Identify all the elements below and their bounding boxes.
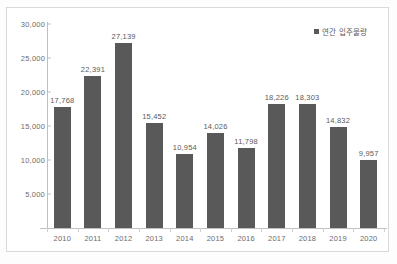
- x-axis-tick-mark: [170, 228, 171, 232]
- x-axis-tick-label: 2015: [200, 234, 231, 243]
- y-axis-tick-label: 25,000: [1, 54, 45, 63]
- x-axis-tick-label: 2016: [231, 234, 262, 243]
- x-axis-tick-mark: [78, 228, 79, 232]
- x-axis-tick-label: 2019: [323, 234, 354, 243]
- x-axis-tick-label: 2013: [139, 234, 170, 243]
- bar[interactable]: 14,832: [330, 127, 347, 228]
- y-axis-tick-label: 10,000: [1, 156, 45, 165]
- bar[interactable]: 18,303: [299, 104, 316, 228]
- bar[interactable]: 18,226: [268, 104, 285, 228]
- x-axis-tick-label: 2017: [261, 234, 292, 243]
- bar[interactable]: 10,954: [176, 154, 193, 228]
- x-axis-tick-mark: [323, 228, 324, 232]
- y-axis-tick-mark: [47, 126, 51, 127]
- bar[interactable]: 9,957: [360, 160, 377, 228]
- x-axis-tick-mark: [384, 228, 385, 232]
- x-axis-tick-label: 2012: [108, 234, 139, 243]
- bar[interactable]: 27,139: [115, 43, 132, 228]
- y-axis-tick-mark: [47, 194, 51, 195]
- bar-column[interactable]: 15,452: [139, 36, 170, 228]
- y-axis-tick-mark: [47, 160, 51, 161]
- x-axis-tick-label: 2018: [292, 234, 323, 243]
- x-axis-category-labels: 2010201120122013201420152016201720182019…: [47, 234, 384, 248]
- bar-value-label: 10,954: [173, 143, 197, 152]
- bar-value-label: 14,832: [326, 116, 350, 125]
- bar-value-label: 11,798: [234, 137, 258, 146]
- x-axis-tick-label: 2011: [78, 234, 109, 243]
- x-axis-tick-mark: [353, 228, 354, 232]
- y-axis-tick-mark: [47, 24, 51, 25]
- bar-column[interactable]: 27,139: [108, 36, 139, 228]
- bar-value-label: 22,391: [81, 65, 105, 74]
- y-axis-tick-labels: 30,00025,00020,00015,00010,0005,000: [0, 0, 45, 264]
- bar-column[interactable]: 10,954: [170, 36, 201, 228]
- bar-value-label: 17,768: [50, 96, 74, 105]
- bar-value-label: 18,226: [265, 93, 289, 102]
- bar-series-group: 17,76822,39127,13915,45210,95414,02611,7…: [47, 0, 384, 264]
- x-axis-tick-label: 2014: [170, 234, 201, 243]
- bar-value-label: 18,303: [295, 93, 319, 102]
- y-axis-tick-label: 20,000: [1, 88, 45, 97]
- bar-column[interactable]: 18,303: [292, 36, 323, 228]
- legend-swatch-icon: [314, 29, 319, 34]
- y-axis-tick-label: 5,000: [1, 190, 45, 199]
- x-axis-tick-mark: [261, 228, 262, 232]
- legend-label: 연간 입주물량: [322, 26, 367, 37]
- x-axis-tick-mark: [231, 228, 232, 232]
- bar[interactable]: 14,026: [207, 133, 224, 228]
- y-axis-tick-mark: [47, 92, 51, 93]
- x-axis-tick-label: 2010: [47, 234, 78, 243]
- x-axis-tick-label: 2020: [353, 234, 384, 243]
- x-axis-tick-mark: [108, 228, 109, 232]
- x-axis-tick-mark: [200, 228, 201, 232]
- bar-column[interactable]: 17,768: [47, 36, 78, 228]
- bar-value-label: 27,139: [112, 32, 136, 41]
- y-axis-tick-mark: [47, 58, 51, 59]
- y-axis-tick-label: 15,000: [1, 122, 45, 131]
- bar[interactable]: 17,768: [54, 107, 71, 228]
- bar-value-label: 14,026: [203, 122, 227, 131]
- bar-chart-figure: 30,00025,00020,00015,00010,0005,000 17,7…: [0, 0, 397, 264]
- bar-column[interactable]: 14,832: [323, 36, 354, 228]
- bar-column[interactable]: 9,957: [353, 36, 384, 228]
- x-axis-tick-mark: [292, 228, 293, 232]
- bar-value-label: 9,957: [359, 149, 379, 158]
- bar-column[interactable]: 18,226: [261, 36, 292, 228]
- x-axis-tick-mark: [47, 228, 48, 232]
- bar-column[interactable]: 14,026: [200, 36, 231, 228]
- bar[interactable]: 11,798: [238, 148, 255, 228]
- chart-legend: 연간 입주물량: [314, 26, 367, 37]
- y-axis-tick-label: 30,000: [1, 20, 45, 29]
- bar[interactable]: 22,391: [84, 76, 101, 228]
- bar-column[interactable]: 22,391: [78, 36, 109, 228]
- bar-value-label: 15,452: [142, 112, 166, 121]
- x-axis-tick-mark: [139, 228, 140, 232]
- bar-column[interactable]: 11,798: [231, 36, 262, 228]
- bar[interactable]: 15,452: [146, 123, 163, 228]
